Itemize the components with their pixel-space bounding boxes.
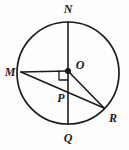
vertex-label-m: M [4, 65, 16, 79]
geometry-figure: N M O P Q R [0, 0, 129, 150]
circle-diagram-canvas: N M O P Q R [0, 0, 129, 150]
vertex-label-p: P [57, 91, 65, 105]
center-point-o [65, 68, 71, 74]
radius-or [68, 71, 104, 108]
radius-mo [21, 71, 68, 72]
vertex-label-n: N [63, 2, 74, 16]
vertex-label-r: R [108, 111, 117, 125]
vertex-label-o: O [76, 58, 85, 72]
vertex-label-q: Q [64, 131, 73, 145]
